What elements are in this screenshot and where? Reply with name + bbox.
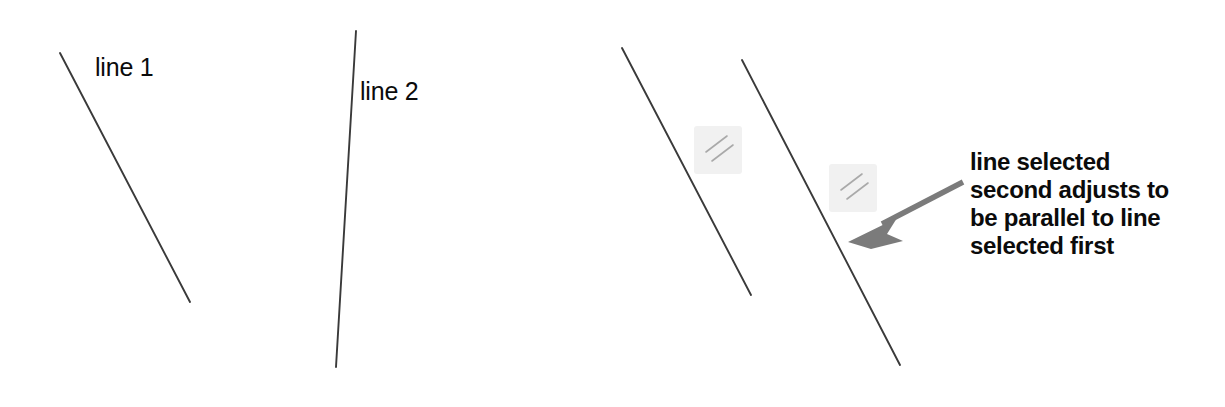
parallel-line-b-stroke[interactable] xyxy=(742,60,900,365)
line-2-stroke[interactable] xyxy=(336,31,356,367)
callout-text-line-3: be parallel to line xyxy=(970,204,1210,232)
illustration-canvas: line 1 line 2 line selected second adjus… xyxy=(0,0,1225,407)
line-1-stroke[interactable] xyxy=(60,53,190,302)
callout-text-line-2: second adjusts to xyxy=(970,176,1210,204)
callout-annotation-text: line selected second adjusts to be paral… xyxy=(970,148,1210,260)
line-1-label: line 1 xyxy=(95,55,154,80)
parallel-marker-icon[interactable] xyxy=(694,126,742,174)
callout-text-line-1: line selected xyxy=(970,148,1210,176)
callout-text-line-4: selected first xyxy=(970,232,1210,260)
line-2-label: line 2 xyxy=(360,79,419,104)
parallel-marker-icon[interactable] xyxy=(829,164,877,212)
